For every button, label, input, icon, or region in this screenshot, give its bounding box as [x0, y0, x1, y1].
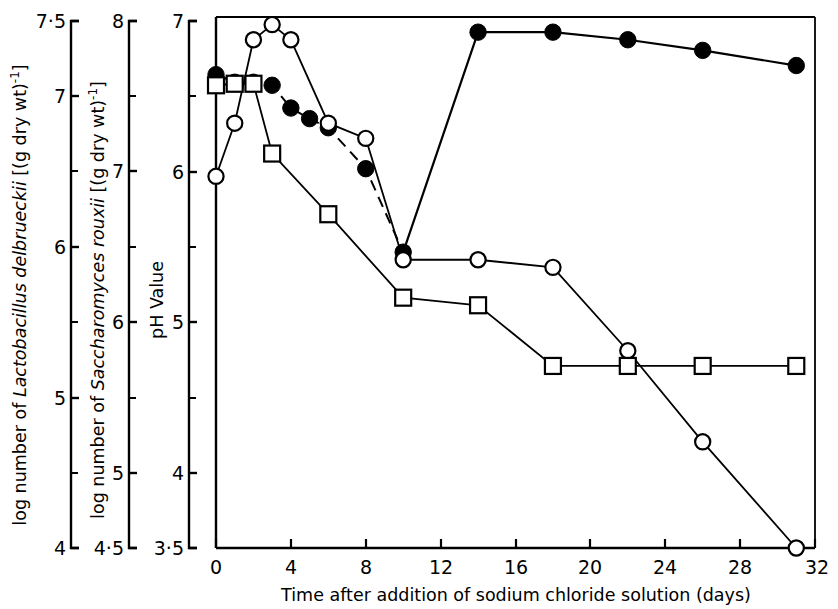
data-point-filled-circle [283, 100, 299, 116]
y2-title-exponent: -1 [86, 88, 100, 100]
y1-tick-label: 7 [54, 85, 66, 107]
y1-tick-label: 7·5 [36, 10, 66, 32]
y1-title-part: log number of [10, 397, 30, 526]
data-point-open-circle [208, 169, 223, 184]
data-point-open-circle [246, 32, 261, 47]
data-point-open-square [208, 77, 224, 93]
data-point-filled-circle [264, 77, 280, 93]
data-point-open-circle [396, 252, 411, 267]
x-tick-label: 24 [653, 556, 677, 578]
data-point-open-square [695, 358, 711, 374]
y-axis-lactobacillus: 7·5 7 6 5 4 [36, 10, 79, 559]
data-point-filled-circle [358, 161, 374, 177]
data-point-open-circle [620, 343, 635, 358]
y2-title-part: [(g dry wt) [88, 100, 108, 198]
data-point-open-square [264, 146, 280, 162]
y3-tick-label: 5 [172, 311, 184, 333]
data-point-open-square [545, 358, 561, 374]
figure-panel: 7·5 7 6 5 4 log number of Lactobacillus … [0, 0, 838, 609]
y1-tick-label: 4 [54, 537, 66, 559]
data-point-open-circle [265, 17, 280, 32]
svg-text:log number of Lactobacillus de: log number of Lactobacillus delbrueckii … [8, 64, 30, 525]
series-line [216, 25, 796, 548]
data-point-open-square [245, 76, 261, 92]
series-open-square [208, 76, 804, 374]
y2-title-species: Saccharomyces rouxii [88, 198, 108, 390]
series-open-circle [208, 17, 803, 556]
data-point-filled-circle [545, 24, 561, 40]
data-point-filled-circle [694, 42, 710, 58]
y2-tick-label: 7 [112, 160, 124, 182]
y1-title-part: [(g dry wt) [10, 83, 30, 181]
data-point-filled-circle [788, 57, 804, 73]
data-point-open-circle [695, 434, 710, 449]
data-point-open-circle [545, 260, 560, 275]
data-point-open-circle [227, 116, 242, 131]
data-series-layer [208, 17, 805, 556]
data-point-open-circle [321, 116, 336, 131]
y1-axis-title: log number of Lactobacillus delbrueckii … [8, 64, 30, 525]
x-tick-label: 16 [504, 556, 528, 578]
data-point-filled-circle [301, 110, 317, 126]
y3-tick-label: 3·5 [154, 537, 184, 559]
y3-axis-title: pH Value [147, 261, 167, 339]
y3-tick-label: 6 [172, 161, 184, 183]
x-tick-label: 4 [285, 556, 297, 578]
x-tick-label: 12 [429, 556, 453, 578]
data-point-open-square [620, 358, 636, 374]
data-point-open-circle [283, 32, 298, 47]
y1-tick-label: 6 [54, 236, 66, 258]
y2-title-part: ] [88, 81, 108, 88]
y2-title-part: log number of [88, 390, 108, 519]
y1-tick-label: 5 [54, 387, 66, 409]
y3-tick-label: 4 [172, 462, 184, 484]
y1-title-part: ] [10, 64, 30, 71]
x-axis-title: Time after addition of sodium chloride s… [280, 585, 751, 605]
data-point-open-circle [470, 252, 485, 267]
chart-svg: 7·5 7 6 5 4 log number of Lactobacillus … [0, 0, 838, 609]
ph-value-label: pH Value [147, 261, 167, 339]
y2-axis-title: log number of Saccharomyces rouxii [(g d… [86, 81, 108, 519]
x-tick-label: 8 [360, 556, 372, 578]
series-line [216, 84, 796, 366]
y3-tick-label: 7 [172, 10, 184, 32]
y2-tick-label: 6 [112, 311, 124, 333]
x-tick-label: 28 [728, 556, 752, 578]
data-point-open-square [788, 358, 804, 374]
data-point-filled-circle [620, 32, 636, 48]
svg-text:log number of Saccharomyces ro: log number of Saccharomyces rouxii [(g d… [86, 81, 108, 519]
data-point-open-square [227, 76, 243, 92]
series-filled-circle [208, 24, 805, 260]
ph-line-dashed [216, 75, 403, 253]
y2-tick-label: 5 [112, 462, 124, 484]
data-point-open-square [320, 206, 336, 222]
y1-title-exponent: -1 [8, 71, 22, 83]
y2-tick-label: 8 [112, 10, 124, 32]
x-tick-label: 0 [210, 556, 222, 578]
y1-title-species: Lactobacillus delbrueckii [10, 181, 30, 397]
x-tick-label: 20 [578, 556, 602, 578]
data-point-open-square [395, 290, 411, 306]
ph-line-solid [403, 32, 796, 252]
x-tick-label: 32 [805, 556, 829, 578]
x-axis: 0 4 8 12 16 20 24 28 32 [210, 539, 829, 578]
y2-tick-label: 4·5 [94, 537, 124, 559]
data-point-open-circle [789, 540, 804, 555]
data-point-open-circle [358, 131, 373, 146]
data-point-filled-circle [470, 24, 486, 40]
data-point-open-square [470, 297, 486, 313]
